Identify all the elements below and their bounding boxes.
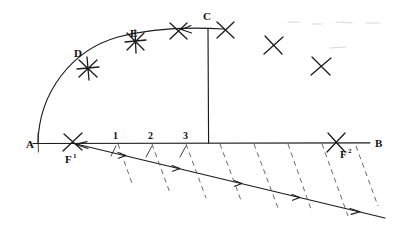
- x-mark-d: [77, 57, 99, 80]
- vertical-line-c: [208, 29, 209, 143]
- baseline-number-3: 3: [183, 130, 188, 141]
- label-b: B: [375, 137, 383, 149]
- label-e: E: [130, 27, 137, 39]
- diagram-canvas: A B C D E F 1 F 2 1 2 3: [0, 0, 414, 240]
- label-c: C: [203, 10, 211, 22]
- x-mark-free-2: [311, 57, 331, 75]
- label-f1: F: [65, 153, 72, 165]
- construction-diagram: A B C D E F 1 F 2 1 2 3: [0, 0, 414, 240]
- baseline-number-1: 1: [113, 130, 118, 141]
- label-f2-superscript: 2: [348, 147, 352, 155]
- x-mark-c-right: [217, 22, 234, 38]
- label-f1-superscript: 1: [73, 152, 77, 160]
- label-f2: F: [340, 148, 347, 160]
- x-mark-free-1: [264, 36, 283, 54]
- hatch-lines: [118, 144, 378, 216]
- baseline-number-2: 2: [148, 130, 153, 141]
- label-d: D: [74, 47, 82, 59]
- diagonal-ray-f1: [72, 143, 385, 218]
- label-a: A: [26, 138, 34, 150]
- x-mark-f1: [63, 133, 82, 151]
- watermark-smudges: [288, 22, 380, 48]
